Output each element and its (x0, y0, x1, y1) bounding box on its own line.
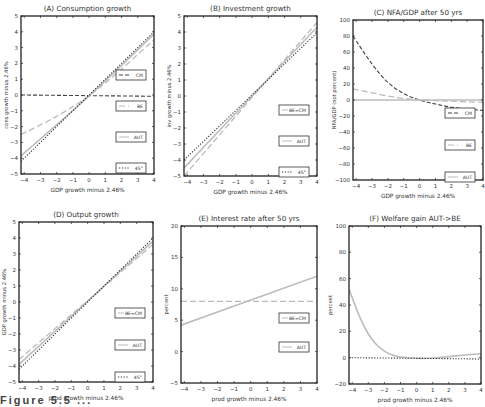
x-axis-label: GDP growth minus 2.46% (381, 193, 456, 200)
y-tick-label: −4 (173, 157, 182, 163)
legend-label: 45° (134, 375, 142, 380)
y-tick-label: −100 (335, 177, 351, 183)
y-tick-label: 60 (343, 49, 350, 55)
x-tick-label: 1 (102, 385, 106, 391)
x-tick-label: −2 (216, 179, 224, 185)
y-tick-label: −2 (8, 331, 16, 337)
y-tick-label: −5 (8, 379, 17, 385)
x-tick-label: −1 (400, 183, 408, 189)
chart-title: (D) Output growth (53, 210, 119, 219)
y-tick-label: 0 (15, 92, 19, 98)
legend-label: BE (137, 104, 143, 109)
x-tick-label: −1 (396, 387, 404, 393)
x-tick-label: −3 (368, 183, 377, 189)
y-tick-label: 1 (13, 283, 17, 289)
y-tick-label: 3 (15, 45, 19, 51)
x-tick-label: 1 (265, 386, 269, 392)
x-tick-label: −3 (197, 386, 206, 392)
x-tick-label: 4 (315, 386, 319, 392)
y-tick-label: 20 (171, 223, 178, 229)
chart-panel-f: (F) Welfare gain AUT->BE−4−3−2−101234−20… (327, 214, 483, 404)
y-tick-label: −1 (173, 109, 181, 115)
legend-item: BE (116, 101, 146, 111)
x-tick-label: 2 (120, 177, 124, 183)
x-tick-label: −2 (380, 387, 388, 393)
y-tick-label: 100 (340, 17, 351, 23)
y-tick-label: −20 (334, 381, 346, 387)
x-tick-label: −3 (364, 387, 373, 393)
y-tick-label: 0 (175, 349, 179, 355)
x-tick-label: −1 (232, 179, 240, 185)
x-tick-label: −2 (384, 183, 392, 189)
plot-frame (349, 226, 481, 384)
legend-label: BE (466, 143, 472, 148)
legend-item: 45° (116, 163, 146, 173)
x-tick-label: 3 (299, 179, 303, 185)
y-tick-label: −60 (338, 145, 350, 151)
x-tick-label: 1 (434, 183, 438, 189)
legend-label: AUT (133, 343, 143, 348)
y-axis-label: percent (327, 295, 334, 315)
y-tick-label: 0 (347, 97, 351, 103)
legend-item: AUT (279, 342, 309, 352)
x-tick-label: −3 (35, 385, 44, 391)
legend-label: AUT (134, 135, 144, 140)
legend-label: 45° (298, 170, 306, 175)
x-tick-label: 4 (315, 179, 319, 185)
y-tick-label: 100 (336, 223, 347, 229)
x-tick-label: 0 (86, 385, 90, 391)
y-tick-label: −20 (338, 113, 350, 119)
y-tick-label: −5 (173, 173, 182, 179)
y-tick-label: −80 (338, 161, 350, 167)
y-axis-label: GDP growth minus 2.46% (1, 269, 8, 335)
legend-label: AUT (297, 345, 307, 350)
x-tick-label: −4 (18, 385, 27, 391)
chart-panel-d: (D) Output growth−4−3−2−101234−5−4−3−2−1… (1, 210, 155, 402)
y-tick-label: 80 (339, 249, 346, 255)
legend-item: AUT (116, 132, 146, 142)
legend-label: AUT (463, 175, 473, 180)
x-tick-label: −1 (69, 177, 77, 183)
x-tick-label: −3 (199, 179, 208, 185)
x-tick-label: 0 (87, 177, 91, 183)
y-tick-label: −4 (8, 363, 17, 369)
y-tick-label: 5 (175, 317, 179, 323)
x-tick-label: 2 (282, 386, 286, 392)
y-tick-label: 0 (343, 355, 347, 361)
x-axis-label: GDP growth minus 2.46% (50, 187, 125, 194)
x-tick-label: 0 (250, 179, 254, 185)
y-tick-label: 15 (171, 254, 178, 260)
chart-title: (A) Consumption growth (44, 4, 132, 13)
x-tick-label: −2 (213, 386, 221, 392)
x-tick-label: 1 (431, 387, 435, 393)
x-tick-label: 0 (249, 386, 253, 392)
x-tick-label: 3 (463, 387, 467, 393)
y-tick-label: 4 (13, 235, 17, 241)
y-tick-label: 5 (15, 13, 19, 19)
x-tick-label: 4 (481, 183, 485, 189)
y-tick-label: 40 (343, 65, 350, 71)
legend-item: CM (116, 70, 146, 80)
plot-frame (181, 226, 317, 383)
legend-item: BE=CM (279, 105, 309, 115)
y-tick-label: −1 (10, 108, 18, 114)
x-tick-label: 0 (415, 387, 419, 393)
chart-title: (B) Investment growth (210, 4, 291, 13)
x-tick-label: 3 (299, 386, 303, 392)
y-tick-label: 20 (339, 328, 346, 334)
x-tick-label: −1 (67, 385, 75, 391)
y-tick-label: 80 (343, 33, 350, 39)
x-axis-label: prod growth minus 2.46% (212, 396, 287, 403)
y-tick-label: −3 (173, 141, 182, 147)
legend-item: BE=CM (279, 313, 309, 323)
legend-item: AUT (445, 172, 475, 182)
legend-label: 45° (135, 166, 143, 171)
y-tick-label: 0 (178, 93, 182, 99)
x-tick-label: 3 (465, 183, 469, 189)
x-tick-label: 0 (418, 183, 422, 189)
y-tick-label: 3 (178, 45, 182, 51)
figure-caption: Figure 5.5 ... (0, 394, 92, 406)
x-tick-label: 4 (151, 385, 155, 391)
x-tick-label: −4 (348, 387, 357, 393)
x-tick-label: −4 (183, 179, 192, 185)
